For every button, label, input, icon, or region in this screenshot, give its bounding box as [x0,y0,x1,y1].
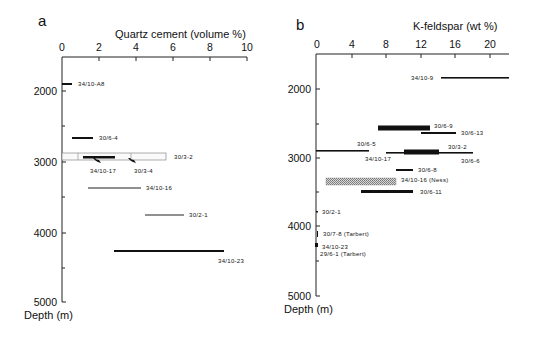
y-tick-label: 4000 [288,220,312,232]
x-ticks-b [352,54,490,58]
bar-30-6-8 [396,169,413,171]
y-axis-title-a: Depth (m) [24,309,73,321]
y-ticks-b [316,89,320,296]
point-30-2-1 [316,211,318,213]
bar-30-6-5 [316,150,369,152]
bar-34-10-23 [114,250,224,252]
panel-b: b K-feldspar (wt %) 0 4 8 12 16 20 2000 … [284,16,509,315]
bar-34-10-A8 [62,83,72,85]
bar-30-3-2 [404,150,439,155]
well-label: 29/6-1 (Tarbert) [320,251,366,257]
well-label: 30/6-4 [99,135,118,141]
y-tick-label: 2000 [288,83,312,95]
bar-34-10-17 [83,156,115,159]
bar-34-10-9 [441,77,509,79]
panel-letter-a: a [38,12,47,29]
well-label: 30/6-11 [420,189,442,195]
x-tick-label: 8 [207,41,213,53]
well-label: 30/6-8 [418,167,437,173]
well-label: 30/6-13 [461,130,484,136]
bar-34-10-16-ness [326,178,396,185]
point-30-7-8 [317,231,318,237]
well-label: 34/10-23 [218,258,244,264]
y-ticks-a [62,91,66,302]
bar-30-6-13 [421,132,456,134]
x-ticks-a [99,57,247,61]
y-tick-label: 5000 [34,296,58,308]
x-tick-label: 20 [484,38,496,50]
figure: a Quartz cement (volume %) 0 2 4 6 8 10 … [0,0,533,346]
bar-30-6-9 [378,126,430,131]
x-tick-label: 4 [349,38,355,50]
well-label: 34/10-17 [90,168,116,174]
x-tick-label: 0 [59,41,65,53]
x-tick-label: 2 [96,41,102,53]
x-tick-label: 16 [449,38,461,50]
well-label: 30/6-5 [357,141,376,147]
x-tick-label: 8 [383,38,389,50]
well-label: 30/3-4 [134,168,153,174]
well-label: 30/7-8 (Tarbert) [323,231,369,237]
well-label: 34/10-23 [322,244,348,250]
x-axis-title-a: Quartz cement (volume %) [115,28,246,40]
x-tick-label: 10 [241,41,253,53]
bar-34-10-16 [88,188,141,189]
x-tick-label: 12 [415,38,427,50]
well-label: 34/10-17 [365,156,391,162]
well-label: 34/10-9 [411,75,434,81]
panel-a: a Quartz cement (volume %) 0 2 4 6 8 10 … [24,12,253,321]
y-tick-label: 3000 [288,152,312,164]
bar-30-6-4 [72,137,93,139]
y-tick-label: 5000 [288,290,312,302]
x-axis-title-b: K-feldspar (wt %) [413,20,497,32]
bar-30-6-11 [361,190,413,193]
y-tick-label: 3000 [34,156,58,168]
y-tick-label: 2000 [34,85,58,97]
y-tick-label: 4000 [34,227,58,239]
well-label: 30/2-1 [322,209,341,215]
y-axis-title-b: Depth (m) [284,303,333,315]
bar-30-2-1 [145,215,184,216]
well-label: 30/6-9 [434,123,453,129]
well-label: 34/10-16 [146,185,172,191]
well-label: 30/6-6 [461,158,480,164]
x-tick-label: 0 [314,38,320,50]
panel-letter-b: b [296,16,304,33]
well-label: 30/3-2 [448,144,467,150]
well-label: 30/2-1 [189,212,208,218]
well-label: 30/3-2 [174,154,193,160]
point-34-10-23 [315,243,318,247]
x-tick-label: 6 [170,41,176,53]
x-tick-label: 4 [133,41,139,53]
well-label: 34/10-A8 [78,81,105,87]
well-label: 34/10-16 (Ness) [401,177,449,183]
